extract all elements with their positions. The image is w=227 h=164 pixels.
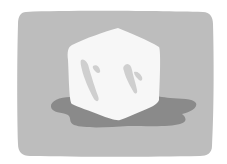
melting-ice-cube-illustration — [0, 0, 227, 164]
ice-cube — [68, 28, 161, 120]
